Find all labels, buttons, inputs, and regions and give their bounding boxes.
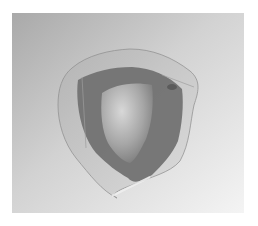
dark-spot [167,84,177,90]
photograph [12,13,244,213]
translucent-ring-image [12,13,244,213]
